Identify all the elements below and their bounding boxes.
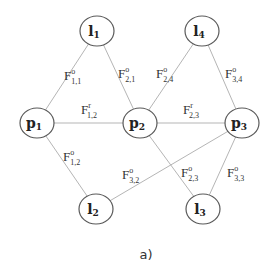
node-l3: l3 xyxy=(186,194,220,224)
figure-caption: a) xyxy=(139,247,152,262)
edge-l2-p3 xyxy=(96,123,242,209)
edge-label-l2-p3: Fo3,2 xyxy=(122,166,139,185)
nodes-layer: l1l4p1p2p3l2l3 xyxy=(20,16,259,224)
edge-label-p2-l3: Fo2,3 xyxy=(181,164,198,183)
node-p2: p2 xyxy=(123,108,157,138)
factor-graph-diagram: Fo1,1Fo2,1Fo2,4Fo3,4Fr1,2Fr2,3Fo1,2Fo3,2… xyxy=(0,0,274,270)
edge-label-p1-l1: Fo1,1 xyxy=(64,67,81,86)
node-p1: p1 xyxy=(20,108,54,138)
node-l1: l1 xyxy=(80,16,114,46)
edge-label-p3-l3: Fo3,3 xyxy=(227,164,244,183)
node-l2: l2 xyxy=(79,194,113,224)
edge-label-p2-p3: Fr2,3 xyxy=(183,101,199,120)
edge-label-l4-p3: Fo3,4 xyxy=(225,65,242,84)
node-p3: p3 xyxy=(225,108,259,138)
edge-label-p2-l4: Fo2,4 xyxy=(156,65,173,84)
edge-label-p1-p2: Fr1,2 xyxy=(81,101,97,120)
node-l4: l4 xyxy=(185,16,219,46)
